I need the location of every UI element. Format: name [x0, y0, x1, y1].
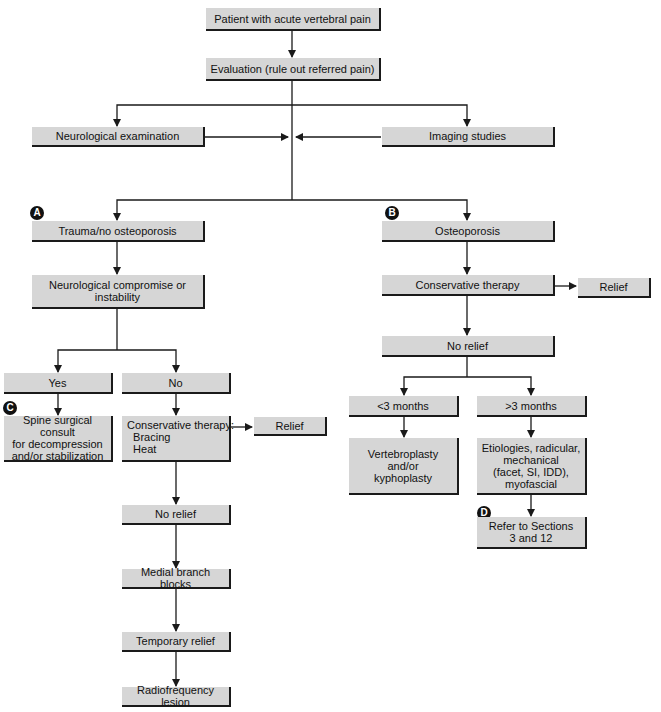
node-label: <3 months	[377, 400, 429, 412]
node-trauma: Trauma/no osteoporosis	[32, 221, 205, 242]
node-label: Refer to Sections 3 and 12	[489, 520, 573, 544]
node-start: Patient with acute vertebral pain	[206, 8, 381, 31]
node-label: No relief	[447, 340, 488, 352]
node-yes: Yes	[4, 373, 113, 394]
node-vertebroplasty: Vertebroplasty and/or kyphoplasty	[349, 438, 459, 495]
node-rf-lesion: Radiofrequency lesion	[122, 687, 231, 707]
node-label: Spine surgical consult for decompression…	[7, 414, 108, 462]
node-label: Relief	[275, 420, 303, 432]
node-label: Conservative therapy: Bracing Heat	[127, 419, 234, 455]
node-gt3-months: >3 months	[477, 396, 587, 417]
node-evaluation: Evaluation (rule out referred pain)	[206, 58, 381, 81]
node-medial-branch: Medial branch blocks	[122, 569, 231, 589]
node-label: Trauma/no osteoporosis	[58, 225, 176, 237]
arrow-to-gt3	[467, 377, 531, 395]
arrow-to-imaging	[292, 105, 467, 126]
arrow-to-yes	[58, 350, 117, 372]
node-spine-consult: Spine surgical consult for decompression…	[4, 416, 113, 462]
node-label: >3 months	[505, 400, 557, 412]
node-label: No relief	[155, 508, 196, 520]
node-neuro-exam: Neurological examination	[32, 127, 205, 147]
arrow-to-lt3	[404, 377, 467, 395]
node-etiologies: Etiologies, radicular, mechanical (facet…	[477, 438, 587, 495]
node-imaging: Imaging studies	[382, 127, 555, 147]
node-label: Etiologies, radicular, mechanical (facet…	[482, 442, 580, 490]
node-conservative-b: Conservative therapy	[382, 275, 555, 296]
node-label: Neurological examination	[56, 130, 180, 142]
node-label: Osteoporosis	[435, 225, 500, 237]
node-osteoporosis: Osteoporosis	[382, 221, 555, 242]
node-label: Evaluation (rule out referred pain)	[211, 63, 375, 75]
arrow-to-osteoporosis	[292, 200, 467, 220]
arrow-to-no	[117, 350, 176, 372]
node-conservative-a: Conservative therapy: Bracing Heat	[122, 416, 231, 462]
node-label: Yes	[49, 377, 67, 389]
node-label: Vertebroplasty and/or kyphoplasty	[368, 448, 438, 484]
node-refer: Refer to Sections 3 and 12	[477, 517, 587, 549]
node-no-relief-b: No relief	[382, 336, 555, 357]
badge-a-icon: A	[30, 206, 44, 220]
badge-c-icon: C	[3, 401, 17, 415]
node-label: Imaging studies	[429, 130, 506, 142]
connector-lines	[0, 0, 661, 712]
node-label: Medial branch blocks	[125, 566, 226, 590]
node-no-relief-a: No relief	[122, 505, 231, 525]
badge-b-icon: B	[385, 206, 399, 220]
node-label: Conservative therapy	[416, 279, 520, 291]
node-relief-a: Relief	[254, 417, 327, 436]
node-lt3-months: <3 months	[349, 396, 459, 417]
node-temp-relief: Temporary relief	[122, 632, 231, 652]
node-relief-b: Relief	[578, 278, 651, 298]
node-label: Neurological compromise or instability	[49, 279, 186, 303]
node-label: Radiofrequency lesion	[125, 684, 226, 708]
node-neuro-compromise: Neurological compromise or instability	[32, 275, 205, 309]
arrow-to-neuro-exam	[117, 105, 292, 126]
node-label: Relief	[599, 281, 627, 293]
node-label: Patient with acute vertebral pain	[214, 13, 371, 25]
node-label: Temporary relief	[136, 635, 215, 647]
node-no: No	[122, 373, 231, 394]
node-label: No	[168, 377, 182, 389]
arrow-to-trauma	[117, 200, 292, 220]
